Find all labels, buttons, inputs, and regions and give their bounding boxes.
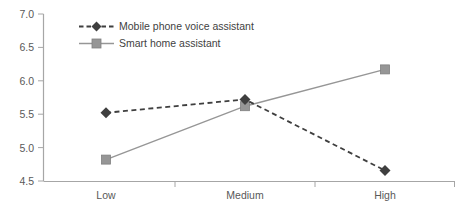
series-line-smart-home-assistant <box>106 69 385 159</box>
x-tick-label-high: High <box>374 189 396 201</box>
x-axis-ticks <box>175 182 455 188</box>
legend-label-smart-home-assistant: Smart home assistant <box>119 37 221 49</box>
x-tick-label-low: Low <box>96 189 116 201</box>
line-chart: 4.5 5.0 5.5 6.0 6.5 7.0 Low Medium High <box>0 0 467 209</box>
y-tick-label-3: 6.0 <box>19 75 34 87</box>
y-tick-label-0: 4.5 <box>19 175 34 187</box>
chart-canvas: 4.5 5.0 5.5 6.0 6.5 7.0 Low Medium High <box>0 0 467 209</box>
legend-entry-smart-home-assistant: Smart home assistant <box>79 37 221 49</box>
legend-square-marker-icon <box>92 39 101 48</box>
x-tick-label-medium: Medium <box>226 189 264 201</box>
y-tick-label-2: 5.5 <box>19 108 34 120</box>
legend-entry-mobile-phone-voice-assistant: Mobile phone voice assistant <box>79 20 254 32</box>
legend-diamond-marker-icon <box>92 22 102 32</box>
legend: Mobile phone voice assistant Smart home … <box>79 20 254 49</box>
legend-label-mobile-phone-voice-assistant: Mobile phone voice assistant <box>119 20 254 32</box>
y-axis-ticks <box>38 14 44 181</box>
y-tick-label-4: 6.5 <box>19 41 34 53</box>
y-tick-label-5: 7.0 <box>19 8 34 20</box>
y-tick-label-1: 5.0 <box>19 142 34 154</box>
